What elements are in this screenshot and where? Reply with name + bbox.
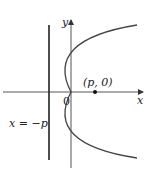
x-axis-label: x xyxy=(137,94,144,107)
directrix-label: x = −p xyxy=(9,117,48,130)
y-axis-label: y xyxy=(61,16,69,29)
focus-point xyxy=(93,90,97,94)
focus-label: (p, 0) xyxy=(83,76,113,89)
parabola-diagram: y x 0 (p, 0) x = −p xyxy=(0,0,153,172)
origin-label: 0 xyxy=(63,95,70,108)
